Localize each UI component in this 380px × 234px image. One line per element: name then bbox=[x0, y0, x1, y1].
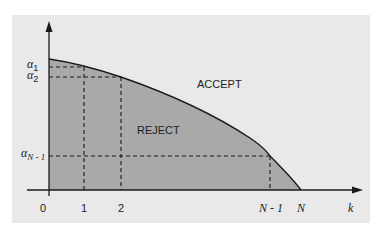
accept-label: ACCEPT bbox=[197, 78, 242, 90]
x-tick-2: 2 bbox=[118, 202, 124, 214]
x-tick-N-1: N - 1 bbox=[258, 201, 283, 215]
reject-label: REJECT bbox=[137, 124, 180, 136]
x-tick-N: N bbox=[296, 201, 306, 215]
threshold-diagram: ACCEPT REJECT α1 α2 αN - 1 0 1 2 N - 1 N… bbox=[0, 0, 380, 234]
x-tick-1: 1 bbox=[81, 202, 87, 214]
x-axis-label: k bbox=[348, 201, 354, 215]
x-tick-0: 0 bbox=[40, 202, 46, 214]
